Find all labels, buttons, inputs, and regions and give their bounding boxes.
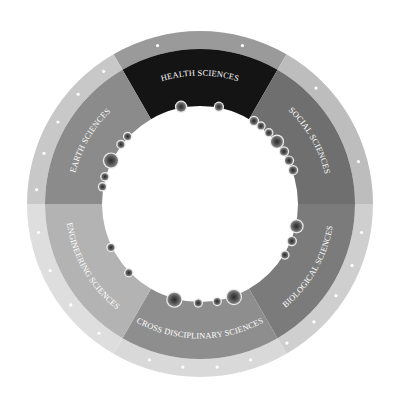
tick-dot — [97, 332, 100, 335]
bubble-marker[interactable] — [195, 299, 202, 306]
bubble-marker[interactable] — [281, 251, 288, 258]
bubble-marker[interactable] — [176, 102, 186, 112]
tick-dot — [314, 86, 317, 89]
tick-dot — [35, 188, 38, 191]
bubble-marker[interactable] — [101, 173, 108, 180]
bubble-marker[interactable] — [280, 148, 288, 156]
segment-health[interactable] — [123, 49, 278, 119]
tick-dot — [102, 70, 105, 73]
bubble-marker[interactable] — [108, 244, 115, 251]
tick-dot — [312, 320, 315, 323]
bubble-marker[interactable] — [117, 141, 124, 148]
tick-dot — [148, 358, 151, 361]
bubble-marker[interactable] — [285, 157, 293, 165]
tick-dot — [249, 358, 252, 361]
segments — [45, 49, 355, 359]
tick-dot — [181, 366, 184, 369]
bubble-marker[interactable] — [214, 298, 221, 305]
bubble-marker[interactable] — [271, 136, 283, 148]
tick-dot — [69, 303, 72, 306]
bubble-marker[interactable] — [104, 154, 118, 168]
bubble-marker[interactable] — [250, 117, 258, 125]
bubble-marker[interactable] — [167, 293, 181, 307]
tick-dot — [360, 231, 363, 234]
tick-dot — [49, 269, 52, 272]
bubble-marker[interactable] — [290, 220, 302, 232]
bubble-marker[interactable] — [99, 183, 106, 190]
bubble-marker[interactable] — [227, 290, 241, 304]
bubble-marker[interactable] — [265, 129, 272, 136]
bubble-marker[interactable] — [215, 103, 223, 111]
tick-dot — [216, 366, 219, 369]
bubble-marker[interactable] — [289, 166, 297, 174]
tick-dot — [77, 93, 80, 96]
bubble-marker[interactable] — [288, 237, 296, 245]
tick-dot — [350, 264, 353, 267]
tick-dot — [334, 294, 337, 297]
tick-dot — [156, 44, 159, 47]
tick-dot — [285, 341, 288, 344]
tick-dot — [37, 231, 40, 234]
tick-dot — [56, 120, 59, 123]
tick-dot — [241, 44, 244, 47]
science-disciplines-wheel: HEALTH SCIENCESSOCIAL SCIENCESBIOLOGICAL… — [0, 0, 400, 404]
bubble-marker[interactable] — [124, 133, 131, 140]
bubble-marker[interactable] — [125, 269, 132, 276]
bubble-marker[interactable] — [257, 122, 264, 129]
tick-dot — [42, 152, 45, 155]
tick-dot — [357, 160, 360, 163]
